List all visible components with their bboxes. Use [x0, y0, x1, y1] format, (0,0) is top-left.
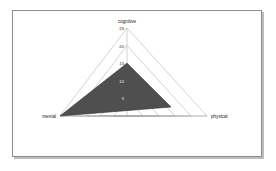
tick-label-20: 20	[119, 44, 124, 49]
tick-label-15: 15	[119, 61, 124, 66]
axis-label-mental: mental	[42, 114, 56, 119]
radar-chart: cognitive mental physical 25 20 15 10 5	[13, 11, 261, 156]
tick-label-10: 10	[119, 79, 124, 84]
axis-label-physical: physical	[211, 114, 228, 119]
plot-frame: cognitive mental physical 25 20 15 10 5	[12, 10, 262, 157]
data-polygon	[60, 63, 171, 116]
axis-label-cognitive: cognitive	[118, 19, 137, 24]
screenshot-root: cognitive mental physical 25 20 15 10 5	[0, 0, 276, 171]
tick-label-25: 25	[119, 26, 124, 31]
